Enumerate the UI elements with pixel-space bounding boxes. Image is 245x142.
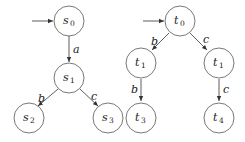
node-s1: s 1 <box>54 63 84 93</box>
svg-text:s: s <box>102 111 108 124</box>
right-tree: b c b c t 0 t 1 t 1 t 3 t 4 <box>126 6 234 133</box>
svg-text:s: s <box>23 111 29 124</box>
node-s2: s 2 <box>14 103 44 133</box>
node-t4: t 4 <box>204 103 234 133</box>
node-t3: t 3 <box>126 103 156 133</box>
svg-text:s: s <box>63 14 69 27</box>
svg-text:1: 1 <box>219 61 224 70</box>
svg-text:t: t <box>213 56 218 69</box>
edge-label-b: b <box>38 92 45 105</box>
node-t1-left: t 1 <box>126 48 156 78</box>
edge-label-c: c <box>91 90 97 103</box>
svg-text:t: t <box>135 56 140 69</box>
node-s0: s 0 <box>54 6 84 36</box>
svg-text:3: 3 <box>141 116 146 125</box>
edge-label-b: b <box>151 35 158 48</box>
left-tree: a b c s 0 s 1 s 2 s 3 <box>14 6 123 133</box>
node-t1-right: t 1 <box>204 48 234 78</box>
edge-label-c: c <box>203 33 209 46</box>
node-t0: t 0 <box>165 6 195 36</box>
edge-label-b: b <box>131 83 138 96</box>
svg-text:t: t <box>174 14 179 27</box>
svg-text:s: s <box>63 71 69 84</box>
edge-label-a: a <box>73 43 80 56</box>
svg-text:2: 2 <box>30 116 35 125</box>
svg-text:3: 3 <box>109 116 114 125</box>
svg-text:0: 0 <box>180 19 185 28</box>
svg-text:t: t <box>135 111 140 124</box>
svg-text:t: t <box>213 111 218 124</box>
svg-text:0: 0 <box>70 19 75 28</box>
svg-text:4: 4 <box>219 116 224 125</box>
svg-text:1: 1 <box>70 76 75 85</box>
svg-text:1: 1 <box>141 61 146 70</box>
node-s3: s 3 <box>93 103 123 133</box>
edge-label-c: c <box>223 83 229 96</box>
transition-systems-diagram: a b c s 0 s 1 s 2 s 3 b c b <box>0 0 245 142</box>
